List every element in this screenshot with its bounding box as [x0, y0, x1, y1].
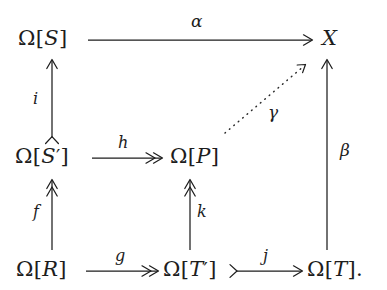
- node-omega-t-bracket-open: [: [325, 257, 334, 281]
- morphism-g: [86, 266, 159, 276]
- gamma-shaft: [225, 66, 304, 133]
- node-omega-t-prime-omega: Ω: [163, 257, 181, 281]
- node-omega-t-bracket-close: ]: [348, 257, 357, 281]
- commutative-diagram: Ω[S] X Ω[S′] Ω[P] Ω[R] Ω[T′] Ω[T]. α i h…: [0, 0, 387, 290]
- node-omega-p-omega: Ω: [170, 144, 188, 168]
- node-omega-t-prime-inner: T: [189, 257, 203, 281]
- label-i: i: [33, 91, 38, 107]
- label-k: k: [197, 204, 207, 220]
- node-x-inner: X: [322, 26, 337, 50]
- morphism-f: [47, 180, 57, 251]
- node-omega-s-prime-omega: Ω: [15, 144, 33, 168]
- node-omega-p-bracket-close: ]: [211, 144, 220, 168]
- label-gamma: γ: [268, 104, 278, 121]
- node-omega-s-omega: Ω: [18, 26, 36, 50]
- label-j: j: [263, 248, 268, 264]
- node-omega-p-inner: P: [196, 144, 210, 168]
- label-h: h: [118, 135, 128, 151]
- morphism-k: [185, 180, 195, 251]
- node-omega-s-prime-bracket-open: [: [33, 144, 42, 168]
- node-omega-t-period: .: [356, 257, 363, 281]
- node-omega-r: Ω[R]: [16, 259, 67, 280]
- node-omega-r-bracket-close: ]: [58, 257, 67, 281]
- node-omega-s-bracket-open: [: [36, 26, 45, 50]
- node-omega-s-bracket-close: ]: [59, 26, 68, 50]
- node-omega-t-inner: T: [333, 257, 347, 281]
- node-omega-s-prime: Ω[S′]: [15, 146, 69, 167]
- j-mono-tail: [230, 265, 237, 278]
- node-omega-t-omega: Ω: [307, 257, 325, 281]
- morphism-i: [46, 60, 59, 144]
- node-x: X: [322, 28, 337, 49]
- label-g: g: [115, 248, 125, 264]
- label-beta: β: [340, 142, 350, 159]
- node-omega-r-omega: Ω: [16, 257, 34, 281]
- node-omega-p: Ω[P]: [170, 146, 219, 167]
- node-omega-r-bracket-open: [: [34, 257, 43, 281]
- morphism-beta: [322, 60, 332, 251]
- node-omega-p-bracket-open: [: [188, 144, 197, 168]
- node-omega-s-inner: S: [44, 26, 59, 50]
- morphism-gamma: [225, 65, 306, 134]
- gamma-arrowhead: [297, 65, 305, 73]
- node-omega-s-prime-bracket-close: ]: [61, 144, 70, 168]
- node-omega-r-inner: R: [42, 257, 58, 281]
- morphism-j: [230, 265, 303, 278]
- node-omega-t-prime-bracket-close: ]: [208, 257, 217, 281]
- node-omega-t: Ω[T].: [307, 259, 363, 280]
- label-alpha: α: [191, 13, 202, 30]
- node-omega-s: Ω[S]: [18, 28, 67, 49]
- morphism-h: [92, 153, 163, 163]
- node-omega-t-prime: Ω[T′]: [163, 259, 217, 280]
- node-omega-s-prime-inner: S: [41, 144, 56, 168]
- node-omega-t-prime-bracket-open: [: [181, 257, 190, 281]
- label-f: f: [33, 204, 39, 220]
- morphism-alpha: [88, 35, 313, 45]
